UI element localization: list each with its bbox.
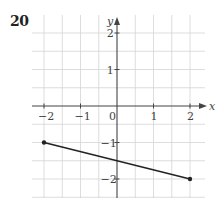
- x-tick-label: −2: [38, 110, 54, 123]
- y-tick-label: 2: [107, 27, 114, 40]
- y-tick-label: −2: [101, 173, 117, 186]
- x-axis-label: x: [209, 100, 216, 113]
- endpoint-dot: [188, 177, 192, 181]
- x-tick-label: 0: [109, 110, 116, 123]
- x-tick-label: 1: [151, 110, 158, 123]
- x-tick-label: 2: [187, 110, 194, 123]
- y-axis-arrow-icon: [114, 17, 120, 25]
- y-tick-label: −1: [101, 137, 117, 150]
- y-tick-label: 1: [107, 64, 114, 77]
- coordinate-plane: x y −2−101221−1−2: [0, 0, 224, 206]
- axes: x y: [32, 15, 216, 198]
- x-tick-label: −1: [75, 110, 91, 123]
- x-axis-arrow-icon: [199, 103, 207, 109]
- endpoint-dot: [42, 140, 46, 144]
